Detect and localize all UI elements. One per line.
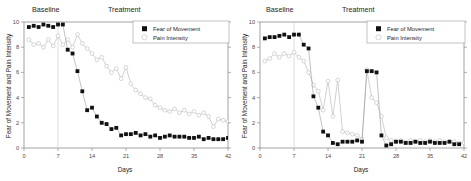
data-point-fear-of-movement: [56, 23, 60, 27]
data-point-pain-intensity: [345, 131, 349, 135]
x-tick-label: 7: [292, 153, 295, 159]
data-point-fear-of-movement: [163, 135, 167, 139]
data-point-fear-of-movement: [272, 35, 276, 39]
legend-label-fear-of-movement: Fear of Movement: [387, 26, 434, 32]
data-point-pain-intensity: [221, 118, 225, 122]
data-point-pain-intensity: [76, 33, 80, 37]
data-point-pain-intensity: [350, 132, 354, 136]
x-tick-label: 0: [22, 153, 25, 159]
y-tick-label: 10: [248, 19, 254, 25]
legend-marker-fear-of-movement: [142, 26, 147, 31]
data-point-fear-of-movement: [306, 47, 310, 51]
legend-label-fear-of-movement: Fear of Movement: [153, 26, 200, 32]
legend-label-pain-intensity: Pain Intensity: [153, 35, 188, 41]
data-point-fear-of-movement: [287, 35, 291, 39]
data-point-fear-of-movement: [457, 142, 461, 146]
data-point-pain-intensity: [139, 92, 143, 96]
data-point-fear-of-movement: [432, 141, 436, 145]
legend-left: Fear of Movement Pain Intensity: [133, 21, 229, 43]
data-point-pain-intensity: [296, 55, 300, 59]
data-point-fear-of-movement: [335, 142, 339, 146]
treatment-label: Treatment: [342, 5, 375, 14]
data-point-pain-intensity: [80, 42, 84, 46]
data-point-pain-intensity: [374, 101, 378, 105]
data-point-pain-intensity: [182, 108, 186, 112]
data-point-pain-intensity: [301, 59, 305, 63]
data-point-fear-of-movement: [129, 132, 133, 136]
data-point-fear-of-movement: [262, 36, 266, 40]
data-point-pain-intensity: [95, 58, 99, 62]
x-tick-label: 21: [123, 153, 129, 159]
data-point-fear-of-movement: [100, 121, 104, 125]
data-point-fear-of-movement: [119, 134, 123, 138]
data-point-pain-intensity: [282, 52, 286, 56]
x-tick-label: 14: [89, 153, 95, 159]
data-point-fear-of-movement: [267, 35, 271, 39]
data-point-fear-of-movement: [202, 137, 206, 141]
data-point-pain-intensity: [267, 57, 271, 61]
chart-panel-left: Baseline Treatment 0714212835420246810 D…: [0, 0, 236, 181]
data-point-pain-intensity: [178, 111, 182, 115]
data-point-fear-of-movement: [153, 134, 157, 138]
data-point-pain-intensity: [32, 43, 36, 47]
data-point-pain-intensity: [462, 141, 466, 145]
data-point-fear-of-movement: [148, 135, 152, 139]
data-point-fear-of-movement: [316, 106, 320, 110]
data-point-fear-of-movement: [374, 71, 378, 75]
data-point-fear-of-movement: [42, 23, 46, 27]
x-tick-label: 0: [258, 153, 261, 159]
data-point-fear-of-movement: [212, 137, 216, 141]
x-tick-label: 21: [358, 153, 364, 159]
data-point-pain-intensity: [90, 52, 94, 56]
data-point-fear-of-movement: [394, 140, 398, 144]
xaxis-title-left: Days: [118, 166, 133, 174]
series-line-pain-intensity: [264, 52, 463, 143]
data-point-fear-of-movement: [110, 127, 114, 131]
y-tick-label: 6: [16, 69, 19, 75]
data-point-pain-intensity: [56, 34, 60, 38]
data-point-pain-intensity: [321, 108, 325, 112]
data-point-pain-intensity: [148, 97, 152, 101]
data-point-fear-of-movement: [311, 94, 315, 98]
data-point-pain-intensity: [71, 45, 75, 49]
data-point-pain-intensity: [187, 112, 191, 116]
data-point-pain-intensity: [292, 50, 296, 54]
data-point-fear-of-movement: [76, 69, 80, 73]
data-point-fear-of-movement: [418, 141, 422, 145]
data-point-fear-of-movement: [408, 141, 412, 145]
data-point-pain-intensity: [262, 59, 266, 63]
data-point-pain-intensity: [119, 77, 123, 81]
chart-svg-right: Baseline Treatment 0714212835420246810 D…: [236, 0, 471, 181]
x-tick-label: 35: [426, 153, 432, 159]
data-point-pain-intensity: [163, 108, 167, 112]
data-point-fear-of-movement: [345, 140, 349, 144]
y-tick-label: 4: [16, 95, 19, 101]
data-point-pain-intensity: [287, 54, 291, 58]
data-point-fear-of-movement: [301, 43, 305, 47]
data-point-pain-intensity: [340, 130, 344, 134]
data-point-pain-intensity: [330, 115, 334, 119]
data-point-pain-intensity: [384, 136, 388, 140]
x-tick-label: 28: [392, 153, 398, 159]
data-point-fear-of-movement: [51, 25, 55, 29]
y-tick-label: 6: [251, 69, 254, 75]
data-point-fear-of-movement: [61, 23, 65, 27]
data-point-fear-of-movement: [168, 134, 172, 138]
data-point-fear-of-movement: [221, 137, 225, 141]
data-point-fear-of-movement: [32, 24, 36, 28]
data-point-pain-intensity: [173, 107, 177, 111]
chart-panel-right: Baseline Treatment 0714212835420246810 D…: [236, 0, 471, 181]
data-point-fear-of-movement: [27, 25, 31, 29]
data-point-fear-of-movement: [139, 134, 143, 138]
data-point-fear-of-movement: [423, 141, 427, 145]
annotations-left: Baseline Treatment: [32, 5, 141, 14]
yaxis-title-left: Fear of Movement and Pain Intensity: [5, 33, 13, 138]
data-point-pain-intensity: [277, 55, 281, 59]
y-tick-label: 8: [16, 44, 19, 50]
y-tick-label: 4: [251, 95, 254, 101]
data-point-fear-of-movement: [85, 108, 89, 112]
data-point-fear-of-movement: [226, 136, 230, 140]
series-layer: [262, 33, 465, 148]
yaxis-title-right: Fear of Movement and Pain Intensity: [241, 33, 249, 138]
data-point-fear-of-movement: [389, 142, 393, 146]
